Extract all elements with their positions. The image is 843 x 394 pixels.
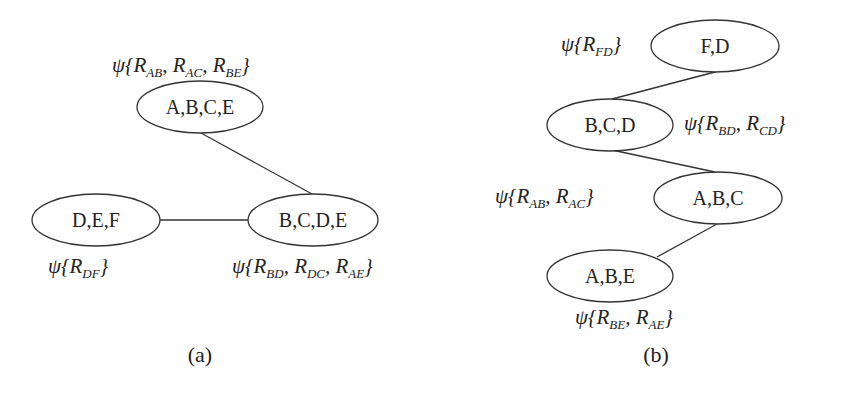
node-bcde: B,C,D,E <box>248 194 378 246</box>
node-label: A,B,C,E <box>166 96 234 118</box>
node-abce: A,B,C,E <box>137 81 263 133</box>
potential-fd: ψ{RFD} <box>561 32 622 59</box>
junction-tree-diagram: A,B,C,E D,E,F B,C,D,E ψ{RAB, RAC, RBE} ψ… <box>0 0 843 394</box>
edge-abc-abe <box>657 224 717 257</box>
edge-fd-bcd <box>612 72 715 99</box>
edge-bcd-abc <box>612 150 715 172</box>
node-abc: A,B,C <box>654 172 782 224</box>
node-label: A,B,C <box>692 187 743 209</box>
caption-a: (a) <box>188 342 212 367</box>
node-label: B,C,D,E <box>279 209 347 231</box>
caption-b: (b) <box>643 342 669 367</box>
node-def: D,E,F <box>32 194 160 246</box>
node-label: D,E,F <box>72 209 120 231</box>
node-label: B,C,D <box>584 114 635 136</box>
node-label: F,D <box>701 35 730 57</box>
potential-def: ψ{RDF} <box>48 254 109 281</box>
potential-abc: ψ{RAB, RAC} <box>495 184 594 211</box>
node-label: A,B,E <box>585 265 635 287</box>
potential-bcde: ψ{RBD, RDC, RAE} <box>232 254 373 281</box>
potential-abce: ψ{RAB, RAC, RBE} <box>112 53 250 80</box>
node-fd: F,D <box>651 20 779 72</box>
potential-abe: ψ{RBE, RAE} <box>575 305 673 332</box>
potential-bcd: ψ{RBD, RCD} <box>684 111 786 138</box>
edge-abce-bcde <box>201 133 312 194</box>
node-abe: A,B,E <box>547 250 673 302</box>
node-bcd: B,C,D <box>547 99 673 151</box>
